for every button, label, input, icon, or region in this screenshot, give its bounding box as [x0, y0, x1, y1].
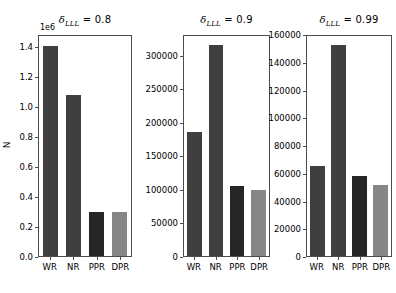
bar-wr: [43, 46, 59, 256]
y-tick-label: 0.0: [0, 252, 33, 262]
bar-nr: [66, 95, 82, 256]
delta-subscript-0: LLL: [65, 20, 80, 28]
x-tick-label: WR: [187, 262, 201, 272]
y-tick-mark: [35, 167, 38, 168]
bar-dpr: [373, 185, 387, 256]
delta-value-2: = 0.99: [344, 14, 379, 25]
y-tick-label: 200000: [133, 118, 178, 128]
bar-nr: [331, 45, 345, 256]
y-tick-label: 40000: [254, 197, 301, 207]
y-tick-label: 60000: [254, 169, 301, 179]
y-tick-mark: [35, 47, 38, 48]
x-tick-label: PPR: [89, 262, 105, 272]
x-tick-label: NR: [209, 262, 221, 272]
x-tick-mark: [360, 257, 361, 260]
y-tick-mark: [35, 227, 38, 228]
y-tick-label: 250000: [133, 84, 178, 94]
delta-value-0: = 0.8: [83, 14, 111, 25]
y-tick-mark: [303, 91, 306, 92]
y-tick-mark: [303, 174, 306, 175]
y-tick-mark: [303, 146, 306, 147]
y-tick-label: 140000: [254, 58, 301, 68]
bar-dpr: [112, 212, 128, 256]
y-tick-mark: [35, 257, 38, 258]
y-tick-mark: [180, 156, 183, 157]
x-tick-label: DPR: [111, 262, 129, 272]
y-tick-mark: [303, 118, 306, 119]
x-tick-mark: [120, 257, 121, 260]
x-tick-mark: [381, 257, 382, 260]
y-tick-mark: [180, 190, 183, 191]
y-tick-mark: [180, 223, 183, 224]
x-tick-label: NR: [67, 262, 79, 272]
y-tick-mark: [180, 89, 183, 90]
y-tick-mark: [35, 107, 38, 108]
panel-title-2: δLLL = 0.99: [306, 14, 392, 28]
bar-wr: [310, 166, 324, 256]
x-tick-mark: [97, 257, 98, 260]
x-tick-mark: [338, 257, 339, 260]
panel-title-0: δLLL = 0.8: [38, 14, 132, 28]
bar-group-0: [39, 36, 131, 256]
x-tick-label: PPR: [229, 262, 245, 272]
y-tick-mark: [180, 257, 183, 258]
x-tick-label: PPR: [352, 262, 368, 272]
y-tick-mark: [303, 257, 306, 258]
plot-area-0: [38, 35, 132, 257]
bar-ppr: [89, 212, 105, 256]
x-tick-mark: [237, 257, 238, 260]
y-tick-label: 1.0: [0, 102, 33, 112]
y-tick-mark: [35, 197, 38, 198]
y-tick-label: 100000: [254, 113, 301, 123]
bar-wr: [187, 132, 201, 256]
y-tick-label: 20000: [254, 224, 301, 234]
x-tick-mark: [317, 257, 318, 260]
bar-nr: [209, 45, 223, 256]
y-tick-label: 0.8: [0, 132, 33, 142]
y-tick-label: 1.4: [0, 42, 33, 52]
y-tick-label: 1.2: [0, 72, 33, 82]
delta-value-1: = 0.9: [224, 14, 252, 25]
panel-0: 1e6 δLLL = 0.8 0.00.20.40.60.81.01.21.4W…: [0, 0, 140, 293]
y-tick-label: 50000: [133, 218, 178, 228]
x-tick-mark: [73, 257, 74, 260]
x-tick-label: DPR: [372, 262, 390, 272]
y-tick-mark: [35, 77, 38, 78]
x-tick-mark: [50, 257, 51, 260]
y-tick-mark: [180, 123, 183, 124]
delta-subscript-2: LLL: [326, 20, 341, 28]
y-tick-label: 0.2: [0, 222, 33, 232]
y-tick-label: 0: [254, 252, 301, 262]
y-tick-label: 100000: [133, 185, 178, 195]
bar-ppr: [230, 186, 244, 256]
plot-area-2: [306, 35, 392, 257]
y-tick-mark: [303, 229, 306, 230]
y-tick-label: 300000: [133, 51, 178, 61]
bar-ppr: [352, 176, 366, 256]
x-tick-label: WR: [310, 262, 324, 272]
x-tick-mark: [216, 257, 217, 260]
y-tick-mark: [35, 137, 38, 138]
x-tick-mark: [194, 257, 195, 260]
y-tick-mark: [303, 202, 306, 203]
panel-2: δLLL = 0.99 0200004000060000800001000001…: [254, 0, 396, 293]
delta-subscript-1: LLL: [206, 20, 221, 28]
y-tick-label: 80000: [254, 141, 301, 151]
y-tick-label: 120000: [254, 86, 301, 96]
x-tick-label: WR: [43, 262, 57, 272]
y-tick-mark: [303, 63, 306, 64]
y-tick-label: 160000: [254, 30, 301, 40]
x-tick-label: NR: [332, 262, 344, 272]
bar-group-2: [307, 36, 391, 256]
y-tick-label: 150000: [133, 151, 178, 161]
y-tick-label: 0.4: [0, 192, 33, 202]
y-tick-mark: [180, 56, 183, 57]
y-tick-label: 0: [133, 252, 178, 262]
y-tick-mark: [303, 35, 306, 36]
y-tick-label: 0.6: [0, 162, 33, 172]
